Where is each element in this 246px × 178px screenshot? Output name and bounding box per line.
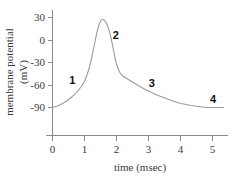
phase-annotations: 1234 <box>69 29 217 106</box>
x-tick-label-1: 1 <box>82 143 88 155</box>
y-axis-title-group: membrane potential (mV) <box>3 28 30 116</box>
y-tick-label-30: 30 <box>34 11 46 23</box>
action-potential-trace <box>53 19 224 107</box>
x-tick-label-0: 0 <box>50 143 56 155</box>
y-tick-label-neg90: -90 <box>30 101 45 113</box>
plot-canvas: 30 0 -30 -60 -90 membrane potential (mV)… <box>0 0 246 178</box>
phase-label-4: 4 <box>210 93 217 105</box>
y-axis-title-line1: membrane potential <box>3 28 15 116</box>
y-tick-label-neg30: -30 <box>30 56 45 68</box>
y-axis-title-line2: (mV) <box>17 60 30 84</box>
y-axis-group: 30 0 -30 -60 -90 <box>30 10 52 141</box>
x-tick-label-5: 5 <box>210 143 216 155</box>
x-tick-label-3: 3 <box>146 143 152 155</box>
y-tick-label-0: 0 <box>40 34 46 46</box>
x-tick-marks <box>53 136 213 142</box>
phase-label-1: 1 <box>69 74 75 86</box>
x-tick-label-4: 4 <box>178 143 184 155</box>
x-tick-label-2: 2 <box>114 143 120 155</box>
y-tick-label-neg60: -60 <box>30 79 45 91</box>
x-axis-group: 0 1 2 3 4 5 time (msec) <box>46 136 228 175</box>
x-axis-title: time (msec) <box>114 161 167 174</box>
phase-label-2: 2 <box>113 29 119 41</box>
action-potential-figure: 30 0 -30 -60 -90 membrane potential (mV)… <box>0 0 246 178</box>
y-tick-marks <box>48 18 53 108</box>
phase-label-3: 3 <box>149 77 155 89</box>
